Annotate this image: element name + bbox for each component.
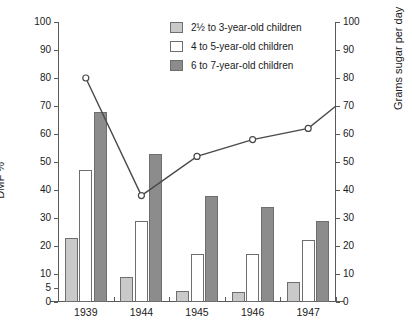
x-axis-tick — [280, 297, 281, 302]
line-path — [86, 78, 336, 196]
y-axis-right-tick-label: 60 — [343, 129, 354, 139]
y-axis-left-tick-label: 20 — [40, 241, 51, 251]
y-axis-right-tick — [336, 78, 340, 79]
x-axis-tick-label: 1944 — [130, 306, 153, 318]
bar — [149, 154, 162, 302]
bar — [79, 170, 92, 302]
y-axis-right-tick-label: 80 — [343, 73, 354, 83]
y-axis-right-tick-label: 40 — [343, 185, 354, 195]
bar — [316, 221, 329, 302]
y-axis-right-tick — [336, 218, 340, 219]
y-axis-left-tick — [54, 302, 58, 303]
y-axis-left-tick-label: 60 — [40, 129, 51, 139]
y-axis-left-tick-label: 40 — [40, 185, 51, 195]
y-axis-left-tick-label: 5 — [45, 283, 51, 293]
bar — [302, 240, 315, 302]
legend-item-label: 6 to 7-year-old children — [191, 60, 293, 71]
y-axis-right-tick-label: 30 — [343, 213, 354, 223]
bar — [261, 207, 274, 302]
x-axis-tick-label: 1947 — [297, 306, 320, 318]
line-marker — [305, 125, 311, 131]
y-axis-right-tick — [336, 302, 340, 303]
y-axis-left-tick — [54, 50, 58, 51]
x-axis-tick — [58, 297, 59, 302]
y-axis-left-tick-label: 10 — [40, 269, 51, 279]
line-marker — [83, 75, 89, 81]
y-axis-left-tick — [54, 218, 58, 219]
bar — [120, 277, 133, 302]
bar — [287, 282, 300, 302]
chart-container: 10090807060504030201050 1009080706050403… — [0, 0, 412, 324]
bar — [135, 221, 148, 302]
y-axis-right-tick — [336, 246, 340, 247]
x-axis-tick — [114, 297, 115, 302]
y-axis-right-tick — [336, 162, 340, 163]
y-axis-left-tick — [54, 162, 58, 163]
y-axis-left-tick-label: 80 — [40, 73, 51, 83]
y-axis-left-tick — [54, 246, 58, 247]
bar — [94, 112, 107, 302]
line-marker — [138, 193, 144, 199]
y-axis-right-tick-label: 70 — [343, 101, 354, 111]
bar — [191, 254, 204, 302]
bar — [232, 292, 245, 302]
y-axis-right-tick — [336, 274, 340, 275]
x-axis-tick-label: 1946 — [241, 306, 264, 318]
y-axis-left-tick-label: 90 — [40, 45, 51, 55]
y-axis-left-tick-label: 30 — [40, 213, 51, 223]
y-axis-right-tick — [336, 190, 340, 191]
y-axis-right-tick-label: 100 — [343, 17, 360, 27]
legend-item-label: 2½ to 3-year-old children — [191, 22, 302, 33]
y-axis-left-title: DMF % — [0, 162, 6, 199]
y-axis-left-tick — [54, 22, 58, 23]
x-axis-tick-label: 1939 — [74, 306, 97, 318]
y-axis-left-tick — [54, 134, 58, 135]
bar — [246, 254, 259, 302]
y-axis-right-tick-label: 0 — [343, 297, 349, 307]
y-axis-right-tick-label: 20 — [343, 241, 354, 251]
y-axis-left-tick-label: 50 — [40, 157, 51, 167]
y-axis-right-tick-label: 90 — [343, 45, 354, 55]
x-axis-tick — [169, 297, 170, 302]
y-axis-left-tick-label: 0 — [45, 297, 51, 307]
chart-legend: 2½ to 3-year-old children4 to 5-year-old… — [170, 19, 302, 76]
y-axis-right-title: Grams sugar per day — [392, 7, 404, 110]
line-marker — [250, 137, 256, 143]
legend-item: 6 to 7-year-old children — [170, 57, 302, 73]
bar — [176, 291, 189, 302]
y-axis-left-line — [58, 22, 59, 302]
x-axis-tick — [225, 297, 226, 302]
y-axis-right-tick — [336, 106, 340, 107]
bar — [65, 238, 78, 302]
x-axis-tick — [336, 297, 337, 302]
x-axis-tick-label: 1945 — [185, 306, 208, 318]
y-axis-right-tick — [336, 134, 340, 135]
y-axis-right-tick-label: 50 — [343, 157, 354, 167]
y-axis-left-tick-label: 100 — [34, 17, 51, 27]
legend-item: 4 to 5-year-old children — [170, 38, 302, 54]
y-axis-left-tick — [54, 106, 58, 107]
bar — [205, 196, 218, 302]
y-axis-right-tick — [336, 50, 340, 51]
legend-item-label: 4 to 5-year-old children — [191, 41, 293, 52]
y-axis-left-tick — [54, 274, 58, 275]
y-axis-right-tick — [336, 22, 340, 23]
y-axis-right-tick-label: 10 — [343, 269, 354, 279]
legend-swatch-icon — [170, 41, 183, 52]
legend-swatch-icon — [170, 60, 183, 71]
legend-item: 2½ to 3-year-old children — [170, 19, 302, 35]
y-axis-left-tick — [54, 190, 58, 191]
y-axis-left-tick — [54, 288, 58, 289]
y-axis-left-tick — [54, 78, 58, 79]
line-marker — [194, 153, 200, 159]
y-axis-left-tick-label: 70 — [40, 101, 51, 111]
legend-swatch-icon — [170, 22, 183, 33]
